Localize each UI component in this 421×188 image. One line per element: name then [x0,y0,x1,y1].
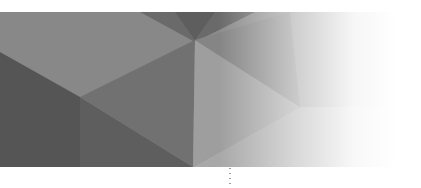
dotted-connector-line [229,168,231,188]
geometric-banner [0,12,421,167]
white-fade-overlay [0,12,421,167]
